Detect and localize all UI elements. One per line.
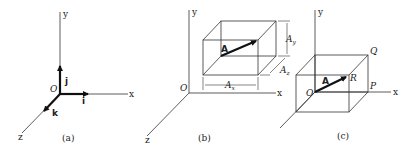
- az-label: Az: [279, 65, 291, 76]
- y-label: y: [191, 7, 198, 17]
- y-label: y: [62, 9, 69, 19]
- vector-a-label: A: [221, 44, 228, 54]
- vector-a-label: A: [322, 76, 329, 86]
- panel-b: [147, 10, 290, 136]
- caption-b: (b): [198, 133, 211, 143]
- origin-label: O: [180, 83, 188, 93]
- z-axis: [147, 93, 189, 136]
- box-back: [221, 21, 276, 56]
- i-label: i: [82, 96, 85, 106]
- x-label: x: [129, 89, 134, 99]
- point-r-label: R: [349, 73, 357, 83]
- vector-a-arrow: [315, 77, 346, 92]
- panel-a: [22, 12, 128, 133]
- caption-a: (a): [62, 133, 74, 143]
- panel-c: [280, 10, 391, 128]
- z-label: z: [145, 135, 150, 145]
- origin-label: O: [306, 88, 314, 98]
- vector-diagram: y x z O j i k (a) y x z O A Ax Ay Az (: [0, 0, 417, 152]
- y-label: y: [317, 7, 324, 17]
- j-label: j: [64, 76, 68, 86]
- x-label: x: [393, 87, 398, 97]
- z-label: z: [18, 132, 23, 142]
- point-q-label: Q: [370, 46, 378, 56]
- box-front: [203, 40, 258, 75]
- k-label: k: [52, 108, 59, 118]
- x-label: x: [277, 88, 282, 98]
- box-back: [315, 55, 368, 92]
- point-p-label: P: [369, 81, 377, 91]
- caption-c: (c): [337, 131, 349, 141]
- ax-label: Ax: [224, 80, 236, 91]
- origin-label: O: [50, 84, 58, 94]
